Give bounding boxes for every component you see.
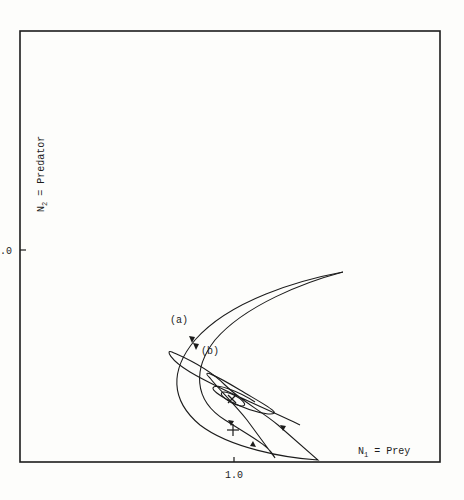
x-axis-label: N1 = Prey — [358, 446, 410, 459]
phase-plane-chart: .0 1.0 N1 = Prey N2 = Predator (a) (b) — [0, 0, 464, 500]
arrow-icon — [193, 343, 199, 350]
curve-label-a: (a) — [170, 315, 188, 326]
curve-label-b: (b) — [201, 346, 219, 357]
y-tick-label: .0 — [0, 246, 12, 257]
isocline-plus-icon — [227, 424, 239, 436]
x-tick-label: 1.0 — [225, 470, 243, 481]
y-axis-label: N2 = Predator — [36, 136, 49, 212]
arrow-icon — [250, 441, 256, 447]
trajectory-b — [200, 272, 343, 458]
